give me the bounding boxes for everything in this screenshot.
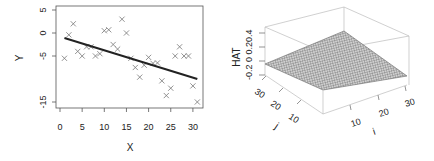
i-tick-10: 10 [350,116,363,129]
hat-surface [265,31,407,90]
z-axis-title: HAT [231,47,242,66]
j-axis-ticks [262,76,301,104]
i-axis-title: i [371,126,377,137]
j-tick-30: 30 [253,86,267,100]
i-tick-30: 30 [404,96,417,109]
i-tick-20: 20 [378,106,391,119]
z-axis-tick-labels: -0.2 0 0.20.4 [244,29,254,80]
j-axis-title: j [272,120,281,131]
j-tick-10: 10 [287,111,301,125]
i-axis-ticks [350,86,406,110]
surface-3d-plot: -0.2 0 0.20.4 HAT 30 20 10 j 10 20 30 i [0,0,434,161]
j-tick-20: 20 [269,98,283,112]
z-axis-ticks [259,33,265,75]
